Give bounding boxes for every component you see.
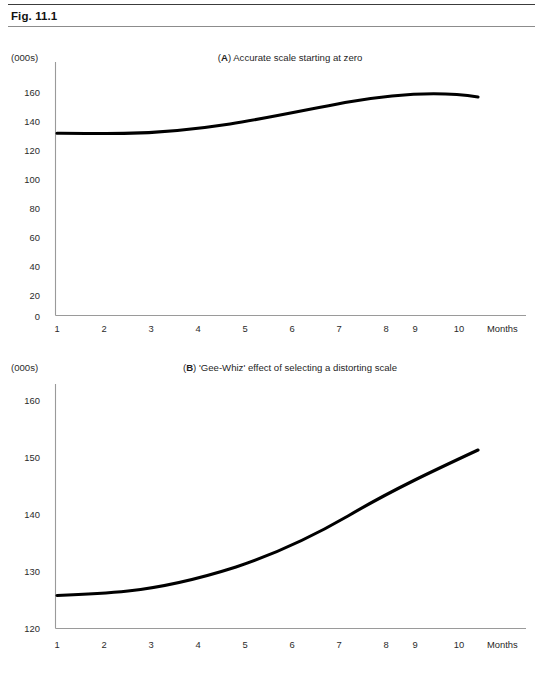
chart-a-ytick-100: 100 <box>6 174 40 185</box>
chart-b-xtick-9: 9 <box>404 639 426 650</box>
chart-a-ytick-60: 60 <box>6 232 40 243</box>
chart-a-ytick-140: 140 <box>6 116 40 127</box>
chart-b-xtick-3: 3 <box>140 639 162 650</box>
chart-a-xtick-8: 8 <box>375 323 397 334</box>
chart-a-xtick-7: 7 <box>328 323 350 334</box>
chart-b-ytick-130: 130 <box>6 566 40 577</box>
chart-a-ytick-0: 0 <box>6 311 40 322</box>
chart-a-xtick-1: 1 <box>46 323 68 334</box>
figure-header-rule: Fig. 11.1 <box>8 4 535 27</box>
chart-b-ytick-150: 150 <box>6 452 40 463</box>
chart-b-xtick-2: 2 <box>93 639 115 650</box>
chart-b-ytick-120: 120 <box>6 623 40 634</box>
chart-b-xtick-10: 10 <box>448 639 470 650</box>
chart-b-xtick-7: 7 <box>328 639 350 650</box>
chart-a-data-line <box>57 94 478 134</box>
chart-a-xtick-6: 6 <box>281 323 303 334</box>
chart-a-ytick-120: 120 <box>6 145 40 156</box>
chart-a-ytick-160: 160 <box>6 87 40 98</box>
chart-b-ytick-140: 140 <box>6 509 40 520</box>
chart-b-x-axis-label: Months <box>487 639 518 650</box>
chart-a-ytick-40: 40 <box>6 261 40 272</box>
chart-a-xtick-3: 3 <box>140 323 162 334</box>
chart-b-xtick-1: 1 <box>46 639 68 650</box>
chart-a-xtick-5: 5 <box>234 323 256 334</box>
chart-a-block: (000s) (A) Accurate scale starting at ze… <box>0 44 543 334</box>
chart-a-ytick-80: 80 <box>6 203 40 214</box>
chart-b-block: (000s) (B) 'Gee-Whiz' effect of selectin… <box>0 354 543 659</box>
chart-a-x-axis-label: Months <box>487 323 518 334</box>
figure-page: Fig. 11.1 (000s) (A) Accurate scale star… <box>0 0 543 674</box>
chart-a-ytick-20: 20 <box>6 290 40 301</box>
figure-number-label: Fig. 11.1 <box>11 9 57 23</box>
chart-b-xtick-8: 8 <box>375 639 397 650</box>
chart-a-xtick-2: 2 <box>93 323 115 334</box>
chart-b-plot <box>0 354 543 659</box>
chart-a-xtick-10: 10 <box>448 323 470 334</box>
chart-b-ytick-160: 160 <box>6 395 40 406</box>
chart-a-plot <box>0 44 543 334</box>
chart-a-xtick-9: 9 <box>404 323 426 334</box>
chart-b-xtick-4: 4 <box>187 639 209 650</box>
chart-a-xtick-4: 4 <box>187 323 209 334</box>
chart-b-data-line <box>57 450 478 596</box>
chart-b-xtick-5: 5 <box>234 639 256 650</box>
chart-b-xtick-6: 6 <box>281 639 303 650</box>
